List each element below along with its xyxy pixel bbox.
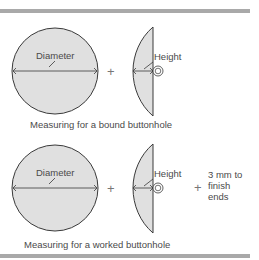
extra-line-1: 3 mm to bbox=[208, 169, 242, 180]
panel-bound: Diameter + Height Measuring for a bound … bbox=[12, 27, 182, 130]
button-side-profile bbox=[133, 27, 153, 116]
shank-loop-inner bbox=[155, 185, 161, 191]
panel-worked: Diameter + Height + 3 mm to finish ends … bbox=[12, 144, 242, 250]
plus-operator: + bbox=[107, 64, 115, 79]
bottom-rule bbox=[0, 254, 250, 258]
diagram: Diameter + Height Measuring for a bound … bbox=[0, 0, 259, 260]
caption-bound: Measuring for a bound buttonhole bbox=[30, 119, 172, 130]
height-label: Height bbox=[154, 168, 182, 179]
extra-line-2: finish bbox=[208, 180, 230, 191]
button-side-profile bbox=[133, 144, 153, 233]
extra-plus-operator: + bbox=[194, 180, 202, 195]
plus-operator: + bbox=[107, 181, 115, 196]
diameter-label: Diameter bbox=[36, 167, 75, 178]
caption-worked: Measuring for a worked buttonhole bbox=[24, 239, 170, 250]
extra-line-3: ends bbox=[208, 191, 229, 202]
shank-loop-inner bbox=[155, 68, 161, 74]
height-label: Height bbox=[154, 51, 182, 62]
diameter-label: Diameter bbox=[36, 50, 75, 61]
